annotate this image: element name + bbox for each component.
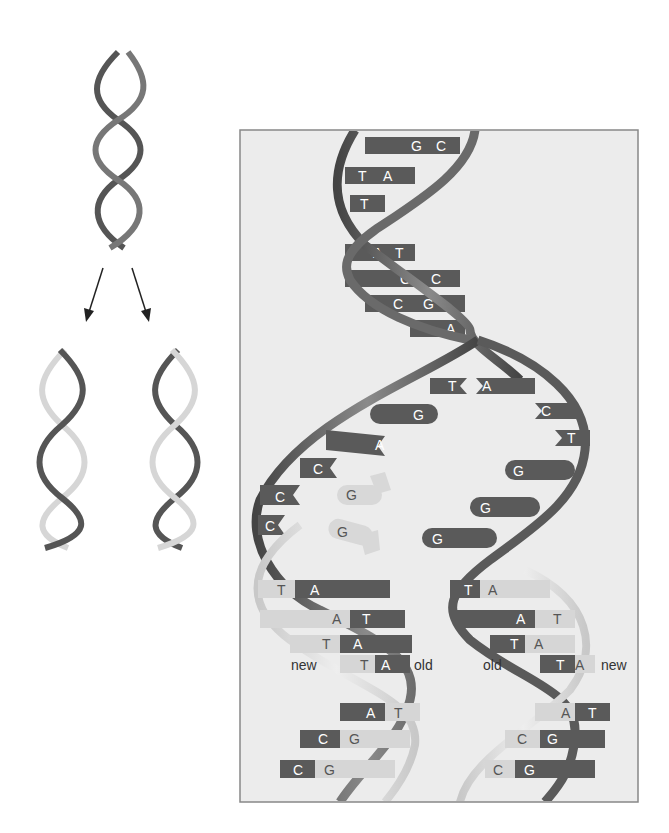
split-arrow-left-icon bbox=[84, 268, 103, 322]
svg-text:C: C bbox=[436, 138, 446, 154]
dna-replication-figure: G C T A T A T G C C G A bbox=[0, 0, 669, 833]
svg-text:A: A bbox=[310, 582, 320, 598]
svg-text:G: G bbox=[346, 487, 357, 503]
svg-text:T: T bbox=[510, 636, 519, 652]
svg-text:C: C bbox=[318, 731, 328, 747]
svg-text:T: T bbox=[464, 582, 473, 598]
label-right-new: new bbox=[601, 657, 628, 673]
svg-text:G: G bbox=[480, 500, 491, 516]
svg-text:A: A bbox=[516, 611, 526, 627]
svg-text:C: C bbox=[493, 762, 503, 778]
label-right-old: old bbox=[483, 657, 502, 673]
label-left-new: new bbox=[291, 657, 318, 673]
svg-text:T: T bbox=[556, 657, 565, 673]
label-left-old: old bbox=[414, 657, 433, 673]
svg-text:A: A bbox=[332, 611, 342, 627]
svg-text:C: C bbox=[293, 762, 303, 778]
svg-text:C: C bbox=[275, 489, 285, 505]
svg-text:T: T bbox=[358, 168, 367, 184]
svg-text:G: G bbox=[411, 138, 422, 154]
svg-text:T: T bbox=[360, 657, 369, 673]
svg-text:C: C bbox=[517, 731, 527, 747]
daughter-helix-right-icon bbox=[153, 350, 198, 548]
svg-text:G: G bbox=[324, 762, 335, 778]
svg-text:A: A bbox=[375, 437, 385, 453]
svg-text:A: A bbox=[381, 657, 391, 673]
svg-text:A: A bbox=[488, 582, 498, 598]
svg-text:G: G bbox=[432, 531, 443, 547]
svg-text:A: A bbox=[353, 636, 363, 652]
svg-text:T: T bbox=[360, 196, 369, 212]
svg-text:T: T bbox=[362, 611, 371, 627]
svg-text:G: G bbox=[524, 762, 535, 778]
svg-text:T: T bbox=[588, 705, 597, 721]
svg-text:G: G bbox=[349, 731, 360, 747]
split-arrow-right-icon bbox=[132, 268, 151, 322]
svg-text:C: C bbox=[265, 518, 275, 534]
svg-text:A: A bbox=[561, 705, 571, 721]
svg-text:G: G bbox=[513, 463, 524, 479]
svg-text:T: T bbox=[567, 430, 576, 446]
svg-text:T: T bbox=[553, 611, 562, 627]
svg-text:G: G bbox=[337, 524, 348, 540]
svg-text:A: A bbox=[482, 378, 492, 394]
svg-text:G: G bbox=[547, 731, 558, 747]
svg-text:T: T bbox=[277, 582, 286, 598]
daughter-helix-left-icon bbox=[40, 350, 85, 548]
svg-text:C: C bbox=[541, 403, 551, 419]
svg-text:A: A bbox=[366, 705, 376, 721]
svg-text:C: C bbox=[313, 461, 323, 477]
svg-text:A: A bbox=[534, 636, 544, 652]
svg-text:T: T bbox=[394, 705, 403, 721]
svg-text:A: A bbox=[575, 657, 585, 673]
svg-text:T: T bbox=[322, 636, 331, 652]
svg-text:T: T bbox=[395, 245, 404, 261]
svg-text:C: C bbox=[393, 296, 403, 312]
svg-text:G: G bbox=[413, 407, 424, 423]
svg-text:C: C bbox=[431, 271, 441, 287]
parent-helix-icon bbox=[96, 52, 144, 248]
svg-text:A: A bbox=[383, 168, 393, 184]
svg-text:T: T bbox=[448, 378, 457, 394]
